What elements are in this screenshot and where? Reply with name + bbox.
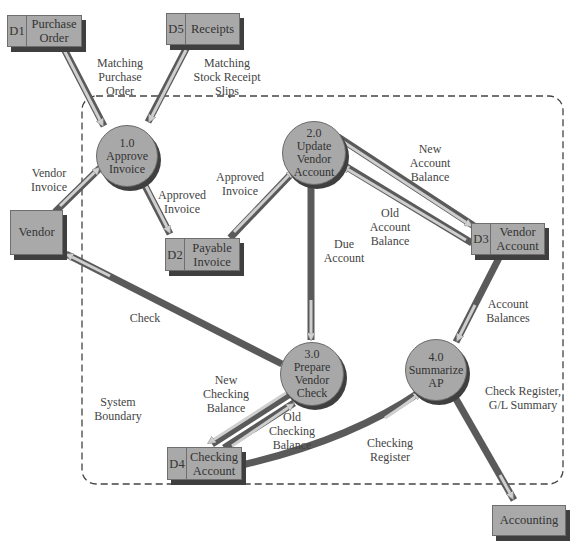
data-store-d5-receipts[interactable]: D5 Receipts [166, 13, 240, 45]
flow-label-new-account-balance: NewAccountBalance [400, 142, 460, 184]
data-store-d1-purchase-order[interactable]: D1 PurchaseOrder [7, 15, 82, 47]
store-id: D2 [166, 239, 185, 270]
flow-label-account-balances: AccountBalances [478, 297, 538, 325]
store-id: D4 [168, 448, 187, 479]
entity-vendor[interactable]: Vendor [10, 210, 63, 255]
dataflow-canvas [0, 0, 573, 548]
flow-label-old-checking-balance: OldCheckingBalance [262, 410, 322, 452]
flow-label-matching-purchase-order: MatchingPurchaseOrder [90, 56, 150, 98]
flow-label-approved-invoice-1: ApprovedInvoice [152, 188, 212, 216]
process-2-update-vendor-account[interactable]: 2.0 Update Vendor Account [282, 121, 346, 185]
flow-label-new-checking-balance: NewCheckingBalance [196, 373, 256, 415]
data-store-d2-payable-invoice[interactable]: D2 PayableInvoice [165, 238, 240, 271]
store-name: VendorAccount [491, 224, 544, 254]
system-boundary-label: SystemBoundary [88, 395, 148, 423]
flow-label-checking-register: CheckingRegister [360, 436, 420, 464]
store-id: D5 [167, 14, 186, 44]
store-name: PurchaseOrder [27, 16, 81, 46]
flow-label-vendor-invoice: VendorInvoice [22, 166, 76, 194]
process-1-approve-invoice[interactable]: 1.0 Approve Invoice [96, 125, 158, 187]
flow-label-approved-invoice-2: ApprovedInvoice [210, 170, 270, 198]
flow-label-check: Check [125, 311, 165, 325]
process-3-prepare-vendor-check[interactable]: 3.0 Prepare Vendor Check [280, 342, 344, 406]
store-name: CheckingAccount [187, 448, 241, 479]
flow-label-matching-stock-receipt-slips: MatchingStock ReceiptSlips [182, 56, 272, 98]
store-id: D3 [472, 224, 491, 254]
data-store-d4-checking-account[interactable]: D4 CheckingAccount [167, 447, 242, 480]
flow-label-check-register-gl-summary: Check Register,G/L Summary [478, 384, 568, 412]
data-store-d3-vendor-account[interactable]: D3 VendorAccount [471, 223, 545, 255]
flow-label-due-account: DueAccount [316, 237, 372, 265]
store-name: PayableInvoice [185, 239, 239, 270]
process-4-summarize-ap[interactable]: 4.0 Summarize AP [405, 339, 467, 401]
entity-accounting[interactable]: Accounting [492, 505, 566, 536]
store-id: D1 [8, 16, 27, 46]
store-name: Receipts [186, 14, 239, 44]
